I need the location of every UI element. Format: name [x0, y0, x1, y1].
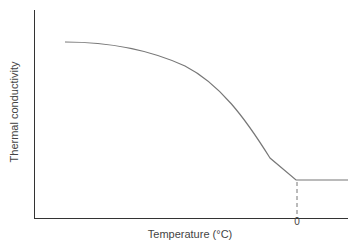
chart-canvas: [0, 0, 364, 248]
conductivity-curve: [65, 42, 348, 180]
x-tick-zero: 0: [294, 216, 300, 227]
x-axis-label: Temperature (°C): [148, 228, 232, 240]
y-axis-label: Thermal conductivity: [8, 62, 20, 163]
